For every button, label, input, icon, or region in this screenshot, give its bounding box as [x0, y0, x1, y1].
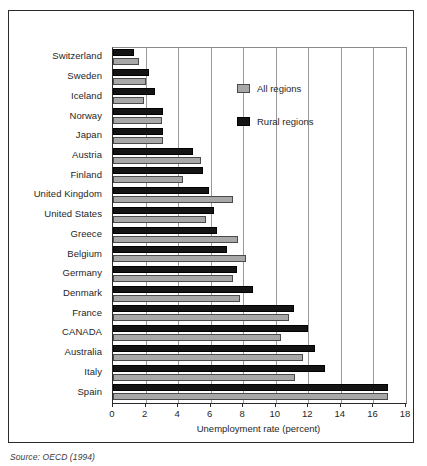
category-label: United Kingdom: [34, 188, 102, 199]
bar-all-regions: [113, 255, 246, 262]
legend-swatch-rural-regions: [237, 117, 250, 126]
tick-label-16: 16: [367, 408, 378, 419]
bar-all-regions: [113, 137, 163, 144]
bar-rural-regions: [113, 167, 203, 174]
bar-rural-regions: [113, 148, 193, 155]
bar-group: [113, 166, 406, 186]
bar-rural-regions: [113, 128, 163, 135]
bar-rows: [113, 48, 406, 403]
bar-rural-regions: [113, 207, 214, 214]
bar-all-regions: [113, 97, 144, 104]
category-label: Belgium: [67, 248, 102, 259]
bar-group: [113, 226, 406, 246]
bar-all-regions: [113, 354, 303, 361]
bar-rural-regions: [113, 69, 149, 76]
bar-rural-regions: [113, 49, 134, 56]
tick-mark-18: [405, 403, 406, 407]
bar-group: [113, 364, 406, 384]
legend-entry-all-regions: All regions: [237, 83, 301, 94]
legend-label-all-regions: All regions: [257, 83, 301, 94]
bar-rural-regions: [113, 108, 163, 115]
bar-rural-regions: [113, 187, 209, 194]
chart-frame: SwitzerlandSwedenIcelandNorwayJapanAustr…: [8, 10, 414, 443]
bar-group: [113, 344, 406, 364]
bar-all-regions: [113, 275, 233, 282]
tick-label-0: 0: [109, 408, 114, 419]
tick-label-4: 4: [174, 408, 179, 419]
category-label: Sweden: [67, 70, 102, 81]
bar-group: [113, 265, 406, 285]
category-label: France: [72, 307, 102, 318]
category-label: Iceland: [71, 90, 102, 101]
tick-label-8: 8: [240, 408, 245, 419]
x-axis-title: Unemployment rate (percent): [112, 423, 405, 434]
bar-all-regions: [113, 58, 139, 65]
tick-label-18: 18: [400, 408, 411, 419]
legend-label-rural-regions: Rural regions: [257, 116, 314, 127]
bar-rural-regions: [113, 286, 253, 293]
bar-all-regions: [113, 176, 183, 183]
bar-all-regions: [113, 334, 281, 341]
bar-rural-regions: [113, 305, 294, 312]
tick-mark-0: [112, 403, 113, 407]
bar-group: [113, 147, 406, 167]
category-label: CANADA: [62, 326, 102, 337]
tick-mark-10: [275, 403, 276, 407]
bar-group: [113, 206, 406, 226]
category-label: Austria: [72, 149, 102, 160]
bar-all-regions: [113, 374, 295, 381]
bar-group: [113, 324, 406, 344]
category-label: Switzerland: [52, 50, 102, 61]
bar-group: [113, 245, 406, 265]
category-label: Finland: [70, 169, 102, 180]
bar-all-regions: [113, 78, 146, 85]
legend-swatch-all-regions: [237, 84, 250, 93]
bar-rural-regions: [113, 246, 227, 253]
figure-container: SwitzerlandSwedenIcelandNorwayJapanAustr…: [0, 0, 427, 466]
category-label: Germany: [63, 267, 102, 278]
category-label: Spain: [77, 386, 102, 397]
tick-label-2: 2: [142, 408, 147, 419]
bar-group: [113, 186, 406, 206]
bar-all-regions: [113, 117, 162, 124]
bar-rural-regions: [113, 266, 237, 273]
category-label: Denmark: [63, 287, 102, 298]
bar-group: [113, 383, 406, 403]
tick-label-6: 6: [207, 408, 212, 419]
bar-rural-regions: [113, 365, 325, 372]
category-label: United States: [44, 208, 102, 219]
bar-group: [113, 285, 406, 305]
tick-mark-8: [242, 403, 243, 407]
bar-all-regions: [113, 196, 233, 203]
bar-all-regions: [113, 314, 289, 321]
gridline-18: [406, 48, 407, 403]
tick-mark-12: [307, 403, 308, 407]
bar-all-regions: [113, 157, 201, 164]
tick-label-14: 14: [335, 408, 346, 419]
category-label: Australia: [65, 346, 102, 357]
tick-label-12: 12: [302, 408, 313, 419]
bar-rural-regions: [113, 227, 217, 234]
tick-mark-2: [145, 403, 146, 407]
bar-all-regions: [113, 393, 388, 400]
tick-mark-4: [177, 403, 178, 407]
bar-rural-regions: [113, 88, 155, 95]
x-axis-ticks: 024681012141618: [112, 403, 405, 423]
bar-rural-regions: [113, 384, 388, 391]
bar-group: [113, 304, 406, 324]
bar-group: [113, 48, 406, 68]
source-note: Source: OECD (1994): [10, 452, 95, 462]
category-axis-labels: SwitzerlandSwedenIcelandNorwayJapanAustr…: [9, 47, 108, 402]
tick-mark-14: [340, 403, 341, 407]
category-label: Japan: [76, 129, 102, 140]
bar-rural-regions: [113, 325, 308, 332]
bar-rural-regions: [113, 345, 315, 352]
tick-mark-16: [372, 403, 373, 407]
category-label: Greece: [71, 228, 102, 239]
bar-group: [113, 127, 406, 147]
plot-area: [112, 47, 407, 404]
bar-all-regions: [113, 216, 206, 223]
tick-label-10: 10: [269, 408, 280, 419]
legend-entry-rural-regions: Rural regions: [237, 116, 314, 127]
category-label: Norway: [69, 110, 102, 121]
